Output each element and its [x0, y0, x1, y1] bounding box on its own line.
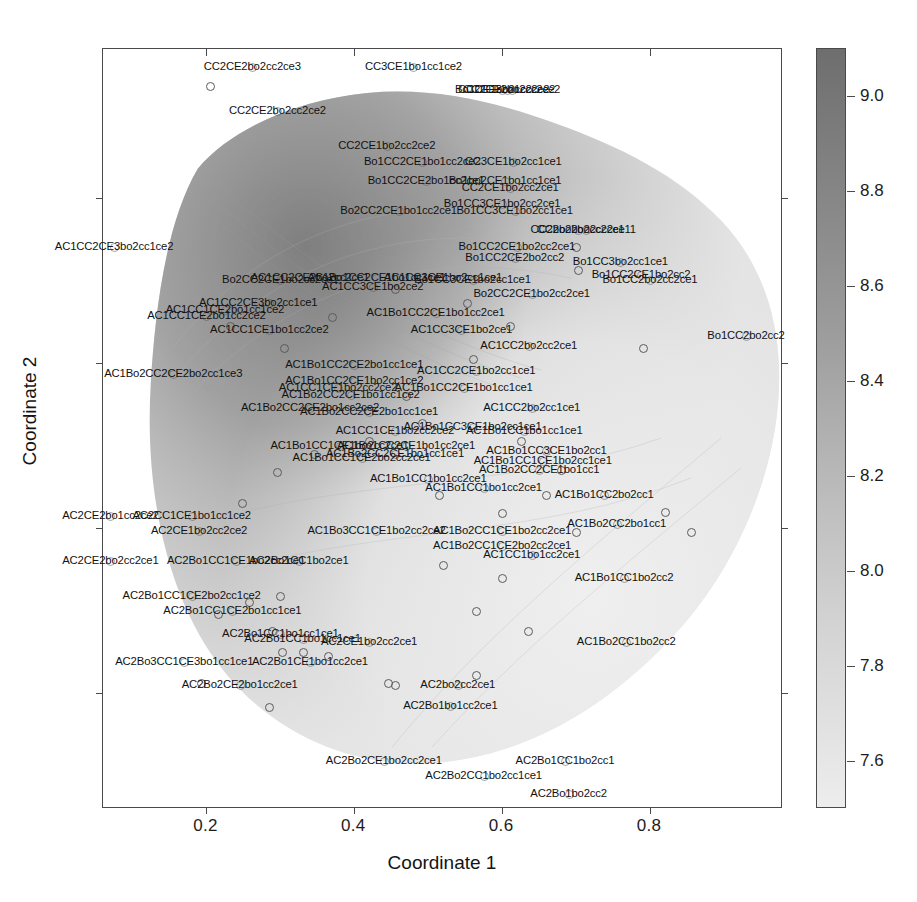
x-tick-label: 0.2	[193, 816, 218, 836]
x-tick	[650, 807, 651, 814]
data-point-label: AC1Bo2CC1CE1bo2cc2ce1	[433, 526, 571, 537]
data-point-label: AC1CC3CE1bo2ce2	[322, 281, 423, 292]
data-point-label: AC2Bo1CE1bo1cc2ce1	[252, 656, 368, 667]
data-point-label: CC3CE1bo1cc1ce2	[365, 62, 462, 73]
x-tick	[206, 807, 207, 814]
data-point	[472, 607, 481, 616]
data-point-label: Bo1CC2CE1bo1cc2ce2	[364, 157, 481, 168]
data-point-label: Bo1CC2bo2cc2ce1	[602, 275, 697, 286]
y-tick-right	[781, 198, 788, 199]
data-point-label: CC3CE1bo2cc1ce1	[465, 157, 562, 168]
data-point-label: AC2Bo2CC1bo2cc1ce1	[425, 770, 542, 781]
data-point-label: CC2CE2bo2cc2ce2	[229, 105, 326, 116]
data-point-label: AC2CE1bo2cc2ce2	[151, 526, 247, 537]
colorbar-tick	[847, 476, 855, 477]
data-point-label: AC1Bo2CC2CE1bo1cc1ce2	[282, 389, 420, 400]
data-point-label: AC1Bo1CC2CE2bo1cc1ce1	[285, 359, 423, 370]
colorbar-tick	[847, 571, 855, 572]
y-tick-right	[781, 528, 788, 529]
data-point-label: CC2CE1bo2cc2ce2	[338, 141, 435, 152]
data-point-label: AC1Bo1CC2CE1bo1cc2ce1	[367, 308, 505, 319]
colorbar-tick-label: 9.0	[860, 86, 884, 106]
data-point-label: AC1Bo2CC2CE2bo1cc1ce1	[300, 407, 438, 418]
data-point	[273, 468, 282, 477]
x-tick-top	[502, 49, 503, 56]
data-point	[661, 508, 670, 517]
colorbar-tick	[847, 96, 855, 97]
plot-area: CC2CE2bo2cc2ce3CC3CE1bo1cc1ce2Bo1CE1bo2c…	[102, 48, 782, 808]
data-point-label: AC1Bo2CC2bo1cc1	[567, 518, 666, 529]
data-point-label: AC2Bo1CC1CE2bo1cc1ce1	[163, 605, 301, 616]
colorbar-tick-label: 8.8	[860, 181, 884, 201]
data-point-label: CC2CE2bo2cc2ce3	[204, 62, 301, 73]
data-point-label: CC2CE3bo1cc2ce2	[458, 85, 555, 96]
y-tick	[96, 363, 103, 364]
colorbar-tick-label: 8.2	[860, 466, 884, 486]
data-point	[391, 681, 400, 690]
data-point-label: AC2Bo2CE1bo2cc2ce1	[326, 755, 442, 766]
data-point-label: Bo1CC3CE1bo2cc1ce1	[456, 205, 573, 216]
data-point-label: AC1Bo3CC1CE1bo2cc2ce2	[307, 526, 445, 537]
data-point-label: AC1CC2CE3bo2cc1ce2	[55, 242, 174, 253]
colorbar-tick-label: 7.8	[860, 656, 884, 676]
data-point-label: AC1CC2bo2cc1ce1	[483, 403, 580, 414]
colorbar-tick	[847, 381, 855, 382]
data-point	[469, 355, 478, 364]
y-tick-right	[781, 363, 788, 364]
scatter-plot-figure: CC2CE2bo2cc2ce3CC3CE1bo1cc1ce2Bo1CE1bo2c…	[0, 0, 917, 902]
data-point-label: AC2CE2bo2cc2ce1	[62, 556, 158, 567]
data-point-label: AC2CE1bo2cc2ce1	[321, 636, 417, 647]
y-tick-right	[781, 693, 788, 694]
data-point-label: AC1CC3CE1bo2ce1	[411, 324, 512, 335]
data-point	[687, 528, 696, 537]
data-point-label: AC1Bo1CC2bo2cc1	[555, 489, 654, 500]
x-tick-label: 0.8	[637, 816, 662, 836]
colorbar-tick	[847, 191, 855, 192]
data-point-label: AC1Bo1CC1bo1cc1ce1	[466, 426, 583, 437]
y-axis-title: Coordinate 2	[19, 311, 41, 511]
data-point-label: AC2Bo1bo1cc2ce1	[403, 700, 497, 711]
data-point-label: AC1CC1CE1bo1cc2ce2	[210, 324, 329, 335]
data-point-label: AC1CC1CE2bo1cc2ce2	[147, 310, 266, 321]
y-tick	[96, 693, 103, 694]
x-tick-top	[650, 49, 651, 56]
data-point-label: AC2Bo2CE2bo1cc2ce1	[182, 679, 298, 690]
colorbar-tick	[847, 286, 855, 287]
data-point-label: AC2Bo1bo2cc2	[530, 788, 607, 799]
data-point-label: AC1Bo1CC1bo2cc2	[575, 572, 674, 583]
data-point-label: CC2CE1bo2cc2ce1	[462, 182, 559, 193]
data-point-label: AC1CC1bo1cc2ce1	[483, 549, 580, 560]
data-point-label: AC2bo2cc2ce1	[420, 679, 495, 690]
x-tick	[502, 807, 503, 814]
data-point-label: AC2Bo1CC1CE2bo2cc1ce2	[123, 590, 261, 601]
data-point-label: AC2Bo1CC1bo2ce1	[249, 556, 349, 567]
colorbar-tick-label: 8.4	[860, 371, 884, 391]
y-tick	[96, 528, 103, 529]
x-tick-label: 0.6	[489, 816, 514, 836]
data-point-label: Bo1CC2bo2cc2	[707, 331, 784, 342]
data-point-label: AC1Bo2CC2CE2bo2cc1ce3	[104, 368, 242, 379]
data-point	[639, 344, 648, 353]
colorbar-gradient	[816, 48, 846, 808]
x-tick-label: 0.4	[341, 816, 366, 836]
data-point-label: AC1CC2CE1bo2cc1ce1	[417, 366, 536, 377]
data-point-label: AC2Bo3CC1CE3bo1cc1ce1	[115, 656, 253, 667]
data-point	[498, 574, 507, 583]
data-point-label: CC2bo2bo2cc2ce11	[537, 224, 636, 235]
data-point-label: AC2CC1CE1bo1cc1ce2	[132, 510, 251, 521]
data-point-label: AC1CC2bo2cc2ce1	[480, 341, 577, 352]
data-point-label: AC1Bo2CC1bo2cc2	[577, 636, 676, 647]
x-tick-top	[354, 49, 355, 56]
data-point-label: Bo2CC2CE1bo1cc2ce1	[340, 205, 457, 216]
x-tick	[354, 807, 355, 814]
colorbar-tick-label: 8.6	[860, 276, 884, 296]
data-point-label: AC1Bo2CC2CE1bo1cc1	[479, 465, 599, 476]
data-point-label: Bo1CC2CE2bo2cc2	[465, 252, 564, 263]
data-point-label: AC1Bo1CC1CE2bo2cc2ce1	[293, 452, 431, 463]
data-point-label: AC1CC1CE1bo2cc2ce2	[336, 426, 455, 437]
colorbar-tick	[847, 761, 855, 762]
colorbar-tick-label: 8.0	[860, 561, 884, 581]
y-tick	[96, 198, 103, 199]
colorbar-tick	[847, 666, 855, 667]
data-point-label: AC2Bo1CC1bo2cc1	[516, 755, 615, 766]
